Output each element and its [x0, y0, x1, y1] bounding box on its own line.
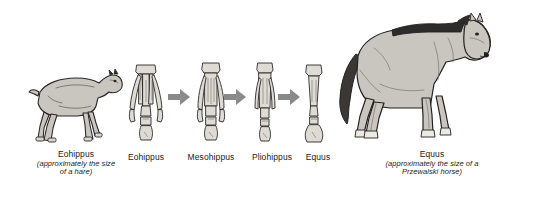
- equus-horse-caption: Equus (approximately the size of a Przew…: [352, 150, 512, 176]
- bone-label-mesohippus: Mesohippus: [175, 152, 247, 162]
- eohippus-animal-note-line2: of a hare): [6, 168, 146, 176]
- eohippus-foot-bone-icon: [126, 62, 166, 144]
- bone-label-equus: Equus: [292, 152, 344, 162]
- horse-evolution-diagram: Eohippus (approximately the size of a ha…: [0, 0, 534, 203]
- right-arrow-icon: [224, 89, 246, 105]
- right-arrow-icon: [278, 89, 300, 105]
- equus-horse-icon: [330, 12, 520, 148]
- bone-label-eohippus: Eohippus: [116, 152, 176, 162]
- equus-foot-bone-icon: [298, 62, 330, 144]
- right-arrow-icon: [168, 89, 190, 105]
- equus-horse-note-line2: Przewalski horse): [352, 168, 512, 176]
- eohippus-animal-icon: [26, 62, 136, 148]
